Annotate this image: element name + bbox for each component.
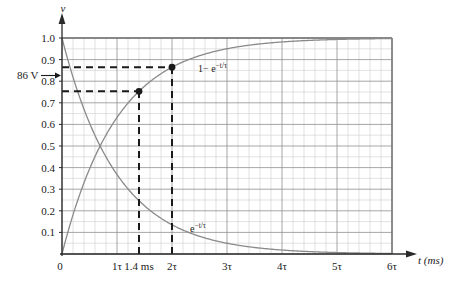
x-axis-tick-label: 3τ xyxy=(222,260,233,272)
y-axis-tick-label: 0.5 xyxy=(41,140,55,152)
data-point-marker xyxy=(136,88,143,95)
x-axis-tick-label: 5τ xyxy=(332,260,343,272)
origin-tick-label: 0 xyxy=(57,260,63,272)
y-axis-tick-label: 0.6 xyxy=(41,118,55,130)
y-axis-tick-label: 0.2 xyxy=(41,205,55,217)
y-axis-tick-label: 0.9 xyxy=(41,54,55,66)
figure-container: 0.10.20.30.40.50.60.70.80.91.0 1τ2τ3τ4τ5… xyxy=(0,0,452,290)
data-point-marker xyxy=(169,64,176,71)
charging-curve-label-exponent: −t/τ xyxy=(216,61,227,70)
y-axis-tick-label: 0.7 xyxy=(41,97,55,109)
y-axis-tick-label: 0.3 xyxy=(41,183,55,195)
y-axis-tick-label: 0.1 xyxy=(41,226,55,238)
x-axis-title: t (ms) xyxy=(418,254,444,267)
x-axis-tick-label: 4τ xyxy=(277,260,288,272)
rc-charge-discharge-chart: 0.10.20.30.40.50.60.70.80.91.0 1τ2τ3τ4τ5… xyxy=(0,0,452,290)
y-axis-title: v xyxy=(61,2,66,14)
y-axis-tick-label: 0.4 xyxy=(41,162,55,174)
special-x-tick-label: 1.4 ms xyxy=(124,260,153,272)
voltage-annotation-label: 86 V xyxy=(17,69,39,81)
x-axis-tick-label: 2τ xyxy=(167,260,178,272)
charging-curve-label-base: 1− e xyxy=(198,63,216,74)
x-axis-tick-label: 1τ xyxy=(112,260,123,272)
y-axis-tick-label: 1.0 xyxy=(41,32,55,44)
chart-background xyxy=(0,0,452,290)
y-axis-tick-label: 0.8 xyxy=(41,75,55,87)
discharging-curve-label-exponent: −t/τ xyxy=(194,221,205,230)
x-axis-tick-label: 6τ xyxy=(387,260,398,272)
